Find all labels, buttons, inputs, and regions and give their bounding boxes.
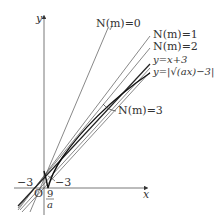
- tick-9-over-a-num: 9: [47, 188, 53, 199]
- y-axis-label: y: [35, 12, 43, 25]
- diagram-canvas: y x O −3 −3 9 a N(m)=0 N(m)=1 N(m)=2 y=x…: [0, 0, 224, 221]
- tick-neg3-right: −3: [55, 176, 71, 189]
- tick-neg3-left: −3: [17, 176, 33, 189]
- label-curve: y=|√(ax)−3|: [152, 66, 214, 78]
- label-n0: N(m)=0: [96, 17, 141, 30]
- origin-label: O: [34, 187, 43, 200]
- tick-9-over-a-den: a: [47, 199, 53, 210]
- label-y-x-plus-3: y=x+3: [152, 54, 187, 65]
- label-n2: N(m)=2: [153, 40, 198, 53]
- x-axis-label: x: [143, 188, 150, 201]
- label-n3: N(m)=3: [118, 104, 163, 117]
